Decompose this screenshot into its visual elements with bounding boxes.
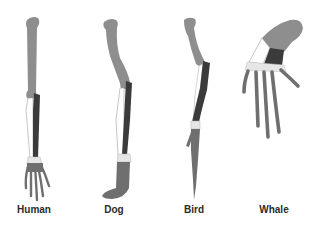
human-humerus: [26, 17, 39, 98]
label-dog: Dog: [84, 204, 144, 215]
dog-limb: [102, 19, 132, 199]
forelimb-diagram: [0, 0, 317, 231]
whale-limb: [244, 20, 303, 137]
human-limb: [26, 17, 49, 200]
label-human: Human: [4, 204, 64, 215]
bird-limb: [184, 18, 210, 200]
bird-digits: [191, 129, 200, 200]
bird-humerus: [184, 18, 205, 66]
whale-digits: [244, 70, 298, 137]
human-radius: [33, 93, 40, 158]
label-whale: Whale: [244, 204, 304, 215]
bird-carpals: [191, 121, 200, 129]
dog-humerus: [103, 19, 130, 90]
dog-paw: [102, 162, 130, 199]
label-bird: Bird: [164, 204, 224, 215]
dog-carpals: [117, 154, 131, 162]
human-ulna: [26, 98, 33, 158]
